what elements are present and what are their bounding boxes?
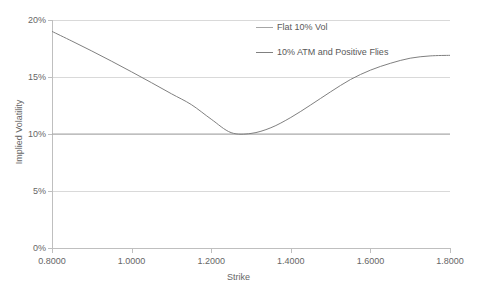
x-tick-label: 1.0000 [102,256,162,267]
y-tick-label: 0% [14,243,46,253]
y-tick-mark [48,191,52,192]
x-axis-title: Strike [0,272,477,282]
x-tick-label: 1.6000 [340,256,400,267]
legend-label: Flat 10% Vol [277,22,328,32]
chart-legend: Flat 10% Vol10% ATM and Positive Flies [256,22,388,72]
y-axis-title: Implied Volatility [14,72,24,192]
y-tick-label: 20% [14,15,46,25]
chart-container: 0%5%10%15%20% 0.80001.00001.20001.40001.… [0,0,477,294]
y-tick-mark [48,248,52,249]
legend-entry-2[interactable]: 10% ATM and Positive Flies [256,47,388,57]
y-tick-mark [48,134,52,135]
legend-line-swatch-icon [256,27,273,28]
legend-line-swatch-icon [256,52,273,53]
x-tick-label: 0.8000 [22,256,82,267]
series-line-2 [52,31,450,134]
x-tick-mark [450,249,451,253]
x-tick-label: 1.4000 [261,256,321,267]
x-tick-label: 1.2000 [181,256,241,267]
legend-label: 10% ATM and Positive Flies [277,47,388,57]
x-tick-label: 1.8000 [420,256,477,267]
x-tick-mark [52,249,53,253]
legend-entry-1[interactable]: Flat 10% Vol [256,22,388,32]
x-tick-mark [291,249,292,253]
y-tick-mark [48,20,52,21]
x-tick-mark [370,249,371,253]
x-tick-mark [211,249,212,253]
series-layer [0,0,477,294]
x-tick-mark [132,249,133,253]
y-tick-mark [48,77,52,78]
